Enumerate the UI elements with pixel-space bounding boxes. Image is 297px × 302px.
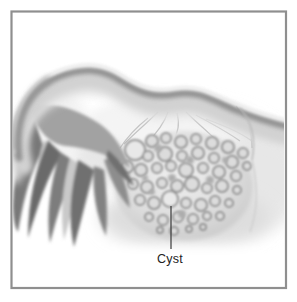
cyst-label: Cyst (157, 252, 183, 266)
medical-illustration: Cyst (0, 0, 297, 302)
illustration-canvas: Cyst (0, 0, 297, 302)
labeled-cyst (162, 191, 178, 207)
